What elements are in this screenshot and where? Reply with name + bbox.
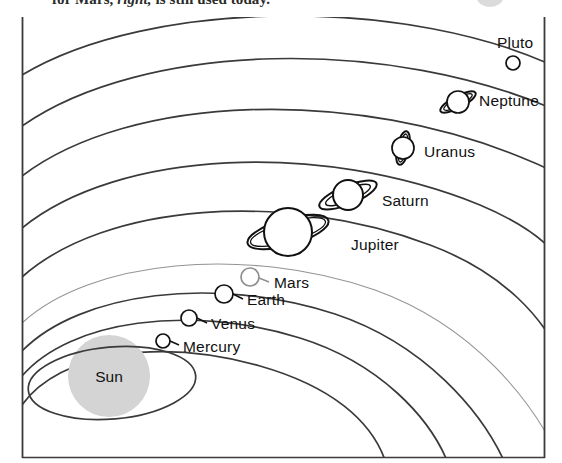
label-mars: Mars [274, 274, 309, 291]
label-pluto: Pluto [497, 34, 533, 51]
planet-body-uranus [392, 137, 414, 159]
label-neptune: Neptune [479, 92, 539, 109]
label-venus: Venus [211, 315, 255, 332]
orbit-layer: Sun MercuryVenusEarthMarsJupiterSaturnUr… [22, 16, 562, 463]
planet-uranus: Uranus [392, 130, 475, 166]
pluto-orbit [22, 16, 562, 75]
uranus-orbit [22, 109, 562, 177]
planet-mars: Mars [241, 268, 309, 291]
label-saturn: Saturn [382, 192, 429, 209]
planet-body-venus [181, 310, 197, 326]
label-uranus: Uranus [424, 143, 475, 160]
planet-layer: MercuryVenusEarthMarsJupiterSaturnUranus… [156, 34, 539, 355]
planet-venus: Venus [181, 310, 255, 332]
label-mercury: Mercury [183, 338, 240, 355]
label-jupiter: Jupiter [351, 236, 399, 253]
planet-jupiter: Jupiter [244, 208, 399, 257]
sun-label: Sun [95, 368, 123, 385]
leader-line-mars [259, 278, 269, 282]
planet-body-pluto [506, 56, 520, 70]
solar-system-diagram: Sun MercuryVenusEarthMarsJupiterSaturnUr… [0, 0, 562, 463]
planet-body-mars [241, 268, 259, 286]
label-earth: Earth [247, 291, 285, 308]
planet-saturn: Saturn [316, 175, 429, 215]
planet-body-jupiter [264, 208, 312, 256]
planet-body-neptune [447, 91, 469, 113]
planet-pluto: Pluto [497, 34, 533, 70]
planet-body-earth [215, 285, 233, 303]
clipped-circle-above [477, 0, 503, 7]
planet-body-saturn [333, 180, 363, 210]
planet-neptune: Neptune [438, 87, 539, 116]
planet-body-mercury [156, 334, 170, 348]
figure-stage: for Mars, right, is still used today. Su… [0, 0, 562, 463]
leader-line-mercury [170, 341, 179, 345]
